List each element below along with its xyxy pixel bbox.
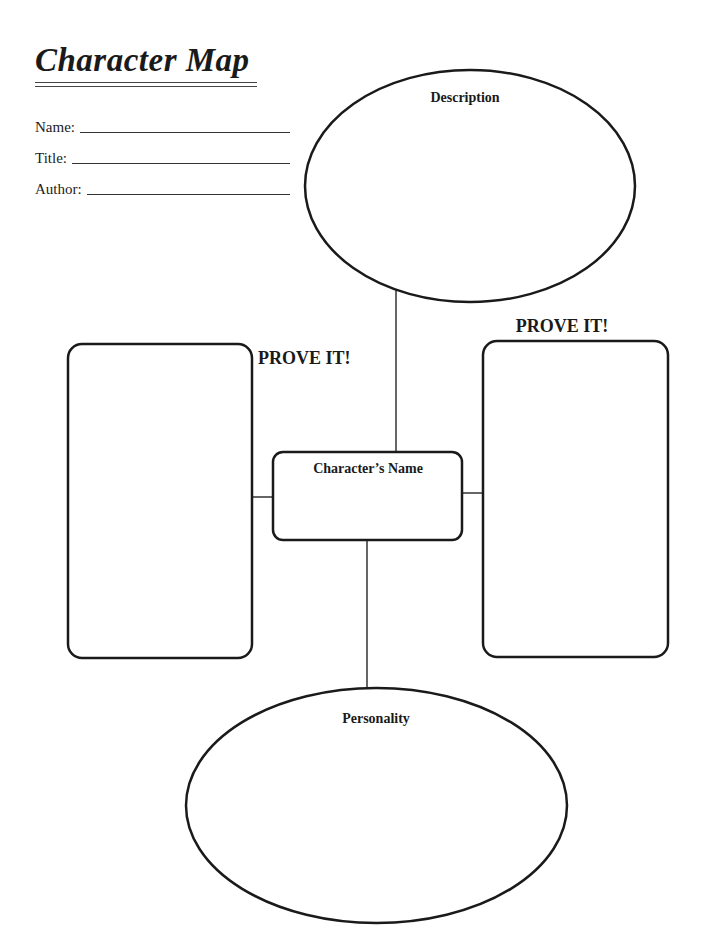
title-label: Title: [35,150,67,166]
name-label: Name: [35,119,75,135]
title-field: Title: [35,149,67,167]
author-input-line[interactable] [87,194,290,195]
name-field: Name: [35,118,75,136]
left-evidence-box[interactable] [68,344,252,658]
author-label: Author: [35,181,82,197]
description-label: Description [400,90,530,106]
right-evidence-box[interactable] [483,341,668,657]
title-input-line[interactable] [72,163,290,164]
page-title: Character Map [35,40,250,80]
title-rule-bottom [35,86,257,87]
personality-label: Personality [316,711,436,727]
prove-it-right-heading: PROVE IT! [510,316,614,337]
author-field: Author: [35,180,82,198]
prove-it-left-heading: PROVE IT! [258,348,362,369]
title-rule-top [35,82,257,83]
character-name-label: Character’s Name [283,461,453,477]
name-input-line[interactable] [80,132,290,133]
